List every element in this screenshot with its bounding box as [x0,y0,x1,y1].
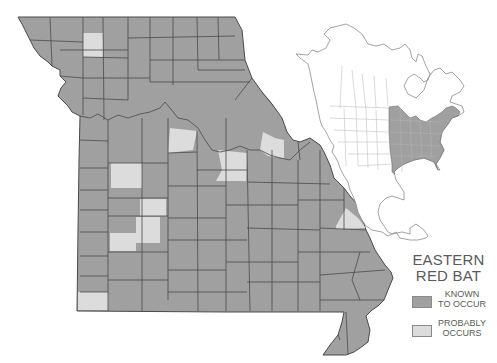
legend-title-line-2: RED BAT [400,268,497,284]
county-probable [110,233,136,251]
county-probable [168,128,197,153]
county-probable [111,163,142,188]
legend-item-known: KNOWN TO OCCUR [400,287,497,313]
county-probable [83,33,103,57]
legend-title-line-1: EASTERN [400,252,497,268]
known-swatch [412,296,432,308]
legend: EASTERN RED BAT KNOWN TO OCCUR PROBABLY … [400,252,497,342]
legend-title: EASTERN RED BAT [400,252,497,284]
county-probable [78,292,108,310]
probable-swatch [412,325,432,337]
legend-item-probable: PROBABLY OCCURS [400,316,497,342]
legend-label-probable: PROBABLY OCCURS [432,318,492,338]
county-probable [140,199,166,216]
legend-label-known: KNOWN TO OCCUR [432,289,492,309]
county-probable [136,217,160,243]
